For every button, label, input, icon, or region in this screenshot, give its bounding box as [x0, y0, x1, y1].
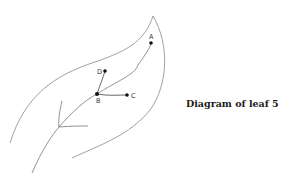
point-d	[103, 69, 107, 73]
point-a	[149, 41, 153, 45]
vein-b-c	[97, 94, 127, 95]
diagram-caption: Diagram of leaf 5	[186, 98, 279, 109]
point-c	[125, 93, 129, 97]
label-b: B	[96, 97, 100, 105]
label-a: A	[149, 33, 154, 41]
leaf-outline-upper	[10, 16, 153, 143]
label-c: C	[131, 92, 136, 100]
leaf-diagram: A B C D	[0, 0, 293, 181]
label-d: D	[97, 68, 102, 76]
point-b	[95, 92, 99, 96]
leaf-vein-lower-left	[59, 101, 62, 127]
leaf-vein-lower-right	[59, 126, 88, 127]
leaf-midrib	[32, 43, 151, 173]
